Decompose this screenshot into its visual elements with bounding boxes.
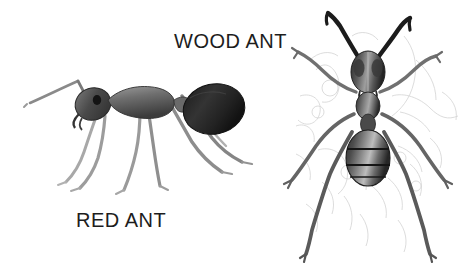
label-red-ant: RED ANT [76,209,166,232]
wood-ant-compound-eye-left [354,59,365,77]
red-ant-mandible [74,114,79,128]
red-ant-gaster [178,78,249,140]
red-ant-thorax [108,87,174,119]
red-ant-eye [93,95,101,105]
wood-ant-compound-eye-right [372,59,383,77]
wood-ant-body [346,51,390,186]
red-ant-body [71,78,250,140]
label-wood-ant: WOOD ANT [174,30,287,53]
ant-comparison-illustration: WOOD ANT RED ANT [0,0,475,266]
red-ant-head [71,83,115,125]
